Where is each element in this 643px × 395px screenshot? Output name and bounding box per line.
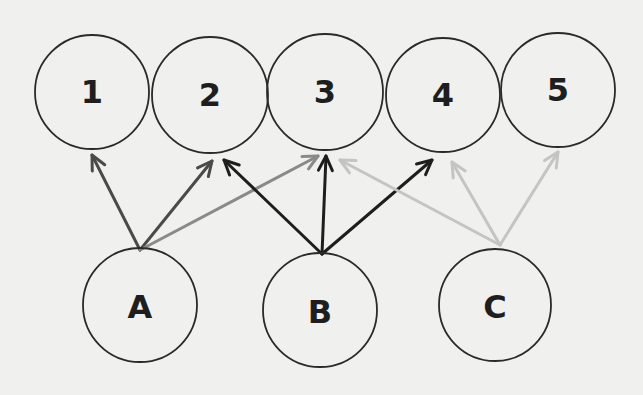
node-label: A	[128, 288, 153, 326]
node-label: C	[483, 288, 506, 326]
arrow-shaft	[322, 160, 432, 254]
node-1: 1	[35, 35, 149, 149]
node-C: C	[439, 249, 551, 361]
node-5: 5	[501, 33, 615, 147]
node-label: B	[308, 293, 332, 331]
bipartite-diagram: 12345ABC	[0, 0, 643, 395]
arrow-A-to-2	[140, 161, 212, 250]
arrow-shaft	[322, 156, 326, 254]
node-A: A	[83, 248, 197, 362]
arrow-shaft	[500, 152, 558, 245]
edges-group	[92, 152, 558, 254]
node-4: 4	[386, 38, 500, 152]
node-label: 5	[547, 71, 569, 109]
node-label: 2	[199, 76, 221, 114]
arrow-shaft	[224, 160, 322, 254]
node-label: 4	[432, 76, 454, 114]
arrow-A-to-1	[92, 155, 140, 250]
arrow-B-to-2	[224, 160, 322, 254]
arrow-B-to-4	[322, 160, 432, 254]
node-2: 2	[152, 37, 268, 153]
node-label: 1	[81, 73, 103, 111]
arrow-shaft	[92, 155, 140, 250]
arrow-shaft	[140, 161, 212, 250]
arrow-C-to-5	[500, 152, 558, 245]
node-3: 3	[267, 34, 383, 150]
node-B: B	[263, 253, 377, 367]
arrow-B-to-3	[318, 156, 332, 254]
node-label: 3	[314, 73, 336, 111]
